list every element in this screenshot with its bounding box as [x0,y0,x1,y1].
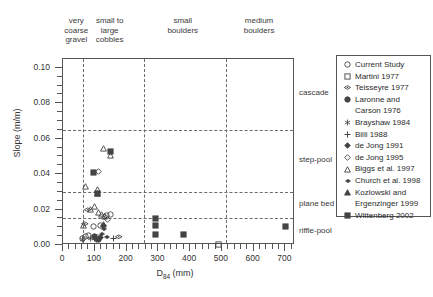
data-point [180,224,187,242]
channel-regime-label: riffle-pool [299,226,332,235]
data-point [104,226,110,244]
legend-item[interactable]: Laronne and [340,94,428,106]
y-axis-tick-label: 0.10 [18,62,50,72]
legend-item-continuation: Carson 1976 [340,105,428,117]
legend-item-label: Biggs et al. 1997 [355,163,415,175]
x-axis-minor-tick [278,244,279,249]
data-point [82,176,89,194]
y-axis-tick-label: 0.06 [18,133,50,143]
legend-marker-icon [340,140,355,152]
legend: Current StudyMartini 1977Teisseyre 1977L… [336,55,431,217]
legend-item[interactable]: Brayshaw 1984 [340,117,428,129]
x-axis-tick-label: 100 [79,253,109,263]
legend-item-label: Billi 1988 [355,129,387,141]
legend-item-label-line2: Ergenzinger 1999 [340,198,418,210]
legend-marker-icon [340,94,355,106]
x-axis-minor-tick [75,244,76,249]
x-axis-tick [284,244,285,251]
y-axis-tick-label: 0.02 [18,204,50,214]
x-axis-tick-label: 400 [174,253,204,263]
y-axis-tick [55,173,62,174]
x-axis-minor-tick [145,244,146,249]
legend-item[interactable]: Church et al. 1998 [340,175,428,187]
x-axis-tick-label: 0 [47,253,77,263]
x-axis-minor-tick [202,244,203,249]
x-axis-tick [253,244,254,251]
grain-size-category-label: small to large cobbles [82,16,138,45]
legend-item[interactable]: Biggs et al. 1997 [340,163,428,175]
legend-item[interactable]: Martini 1977 [340,71,428,83]
legend-marker-icon [340,129,355,141]
legend-item-label: de Jong 1995 [355,152,404,164]
legend-marker-icon [340,71,355,83]
legend-item-label: Teisseyre 1977 [355,82,409,94]
x-axis-minor-tick [151,244,152,249]
legend-item[interactable]: Wittenberg 2002 [340,210,428,222]
x-axis-minor-tick [272,244,273,249]
x-axis-tick-label: 600 [238,253,268,263]
data-point [152,224,159,242]
x-axis-minor-tick [106,244,107,249]
data-point [215,234,222,252]
x-axis-tick-label: 500 [206,253,236,263]
data-point [110,228,117,246]
legend-item-label: Laronne and [355,94,400,106]
legend-marker-icon [340,175,355,187]
x-axis-label: D84 (mm) [120,268,230,280]
x-axis-minor-tick [265,244,266,249]
x-axis-minor-tick [138,244,139,249]
x-axis-minor-tick [208,244,209,249]
legend-item-label: Current Study [355,59,404,71]
legend-item[interactable]: de Jong 1995 [340,152,428,164]
x-axis-minor-tick [183,244,184,249]
data-point [94,183,101,201]
legend-item-label-line2: Carson 1976 [340,105,401,117]
y-axis-tick [55,67,62,68]
legend-item-continuation: Ergenzinger 1999 [340,198,428,210]
channel-regime-label: step-pool [299,155,332,164]
grain-size-boundary-line [226,59,227,243]
data-point [90,162,97,180]
legend-item[interactable]: Current Study [340,59,428,71]
x-axis-minor-tick [176,244,177,249]
y-axis-tick-label: 0.00 [18,239,50,249]
x-axis-tick [62,244,63,251]
grain-size-category-label: small boulders [155,16,211,35]
x-axis-tick-label: 200 [111,253,141,263]
legend-marker-icon [340,210,355,222]
x-axis-label-unit: (mm) [170,268,194,278]
x-axis-minor-tick [246,244,247,249]
legend-marker-icon [340,163,355,175]
legend-marker-icon [340,187,355,199]
y-axis-tick [55,209,62,210]
x-axis-minor-tick [259,244,260,249]
chart-figure: very coarse gravelsmall to large cobbles… [0,0,433,297]
x-axis-minor-tick [234,244,235,249]
x-axis-minor-tick [132,244,133,249]
x-axis-minor-tick [170,244,171,249]
legend-item-label: de Jong 1991 [355,140,404,152]
channel-regime-label: cascade [299,88,329,97]
plot-area [62,58,294,244]
y-axis-tick [55,102,62,103]
grain-size-boundary-line [144,59,145,243]
x-axis-minor-tick [291,244,292,249]
y-axis-tick-label: 0.08 [18,97,50,107]
x-axis-minor-tick [240,244,241,249]
x-axis-minor-tick [68,244,69,249]
legend-marker-icon [340,82,355,94]
y-axis-tick-label: 0.04 [18,168,50,178]
legend-item[interactable]: Teisseyre 1977 [340,82,428,94]
x-axis-minor-tick [164,244,165,249]
data-point [282,216,289,234]
legend-item[interactable]: Kozlowski and [340,187,428,199]
legend-item[interactable]: de Jong 1991 [340,140,428,152]
x-axis-tick [189,244,190,251]
channel-regime-label: plane bed [299,199,334,208]
legend-item[interactable]: Billi 1988 [340,129,428,141]
grain-size-category-label: medium boulders [231,16,287,35]
x-axis-minor-tick [227,244,228,249]
x-axis-tick-label: 700 [269,253,299,263]
legend-item-label: Brayshaw 1984 [355,117,410,129]
legend-item-label: Wittenberg 2002 [355,210,414,222]
